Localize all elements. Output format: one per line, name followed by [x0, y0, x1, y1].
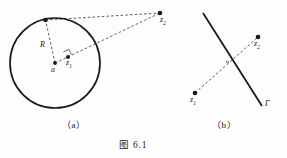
figure-6-1: R a z1 z2 z1 z2 Γ （a） （b） 图 6.1	[0, 0, 287, 158]
panel-b-graphics	[193, 13, 262, 106]
intersection-point	[226, 61, 228, 63]
point-z1-label-panel-b: z1	[190, 96, 196, 106]
z1-subscript-glyph: 1	[69, 63, 72, 69]
figure-caption: 图 6.1	[119, 137, 147, 151]
right-angle-marker	[63, 49, 71, 54]
point-z1-panel-b	[193, 91, 198, 96]
line-gamma-label: Γ	[265, 100, 270, 108]
panel-a-label: （a）	[62, 118, 86, 131]
point-z2-label-panel-b: z2	[254, 40, 260, 50]
line-gamma	[203, 13, 262, 106]
radius-label: R	[40, 41, 45, 49]
center-label: a	[51, 66, 55, 74]
figure-canvas	[0, 0, 287, 158]
tangent-point	[43, 18, 48, 23]
panel-a-graphics	[10, 11, 162, 108]
z1-subscript-glyph: 1	[193, 100, 196, 106]
point-z1-label-panel-a: z1	[66, 59, 72, 69]
z2-subscript-glyph: 2	[163, 20, 166, 26]
z2-subscript-glyph: 2	[257, 44, 260, 50]
segment-a-to-tangent	[46, 20, 56, 63]
point-z2-label-panel-a: z2	[160, 16, 166, 26]
panel-b-label: （b）	[212, 118, 236, 131]
